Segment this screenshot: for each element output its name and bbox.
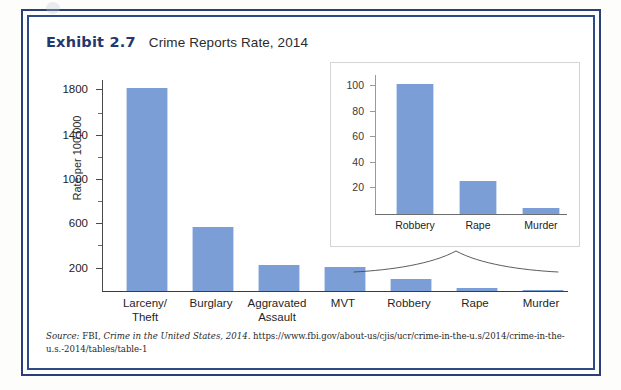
y-tick-label-1800: 1800	[62, 83, 88, 95]
y-tick-minor-800	[98, 201, 102, 202]
inset-bar-rape	[459, 181, 497, 214]
y-tick-1800: 1800	[96, 89, 102, 90]
inset-y-tick-100: 100	[370, 85, 375, 86]
bar-robbery	[390, 279, 432, 290]
bar-aggravated-assault	[258, 265, 300, 291]
exhibit-header: Exhibit 2.7 Crime Reports Rate, 2014	[46, 34, 308, 50]
inset-plot-area: 100 80 60 40 20 Robbery Rape	[375, 75, 567, 215]
inset-y-tick-label-40: 40	[352, 156, 364, 168]
inset-y-tick-20: 20	[370, 187, 375, 188]
inset-y-tick-label-60: 60	[352, 130, 364, 142]
inset-bar-robbery	[396, 84, 434, 214]
x-label-murder: Murder	[497, 296, 585, 310]
inset-y-tick-40: 40	[370, 162, 375, 163]
bar-larceny-theft	[126, 88, 168, 291]
inset-x-label-text: Robbery	[395, 219, 435, 231]
y-tick-label-1000: 1000	[62, 173, 88, 185]
inset-x-label-text: Rape	[465, 219, 490, 231]
inset-x-label-text: Murder	[524, 219, 557, 231]
inset-x-axis-line	[375, 214, 567, 215]
y-tick-minor-400	[98, 245, 102, 246]
x-axis-line	[102, 291, 568, 292]
y-tick-minor-1600	[98, 113, 102, 114]
source-note: Source: FBI, Crime in the United States,…	[46, 330, 574, 356]
y-tick-label-200: 200	[69, 262, 88, 274]
y-axis-line	[102, 80, 103, 292]
y-tick-label-600: 600	[69, 217, 88, 229]
y-tick-600: 600	[96, 223, 102, 224]
y-axis-title: Rate per 100,000	[71, 83, 83, 233]
x-label-line2: Assault	[233, 310, 321, 324]
bar-rape	[456, 288, 498, 291]
inset-y-tick-label-20: 20	[352, 181, 364, 193]
bar-mvt	[324, 267, 366, 291]
source-publisher: FBI,	[82, 331, 100, 341]
source-work-title: Crime in the United States, 2014.	[103, 331, 250, 341]
inset-bar-murder	[522, 208, 560, 214]
y-tick-label-1400: 1400	[62, 129, 88, 141]
exhibit-number: Exhibit 2.7	[46, 34, 136, 50]
inset-y-tick-label-100: 100	[346, 79, 364, 91]
y-tick-1400: 1400	[96, 135, 102, 136]
inset-y-tick-label-80: 80	[352, 105, 364, 117]
inset-x-label-murder: Murder	[501, 219, 581, 231]
bar-murder	[522, 290, 564, 291]
bar-burglary	[192, 227, 234, 290]
y-tick-1000: 1000	[96, 179, 102, 180]
exhibit-page: Exhibit 2.7 Crime Reports Rate, 2014 Rat…	[0, 0, 621, 390]
inset-y-tick-80: 80	[370, 111, 375, 112]
inset-bar-chart: 100 80 60 40 20 Robbery Rape	[330, 62, 580, 247]
y-tick-200: 200	[96, 268, 102, 269]
source-label: Source:	[46, 331, 80, 341]
inset-y-axis-line	[375, 75, 376, 215]
x-label-line2: Theft	[101, 310, 189, 324]
page-title: Crime Reports Rate, 2014	[149, 35, 308, 50]
y-tick-minor-1200	[98, 157, 102, 158]
inset-y-tick-60: 60	[370, 136, 375, 137]
x-label-line1: Murder	[497, 296, 585, 310]
